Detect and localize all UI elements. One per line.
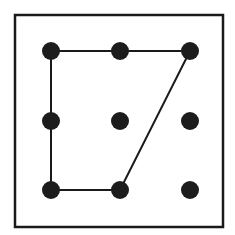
dot-grid-diagram xyxy=(0,0,235,235)
dot-group xyxy=(42,42,199,199)
dot-r2c2 xyxy=(111,112,129,130)
dot-r1c2 xyxy=(111,42,129,60)
dot-r3c3 xyxy=(181,181,199,199)
dot-r1c3 xyxy=(181,42,199,60)
dot-r3c1 xyxy=(42,181,60,199)
dot-r2c1 xyxy=(42,112,60,130)
dot-r1c1 xyxy=(42,42,60,60)
dot-r2c3 xyxy=(181,112,199,130)
dot-r3c2 xyxy=(111,181,129,199)
